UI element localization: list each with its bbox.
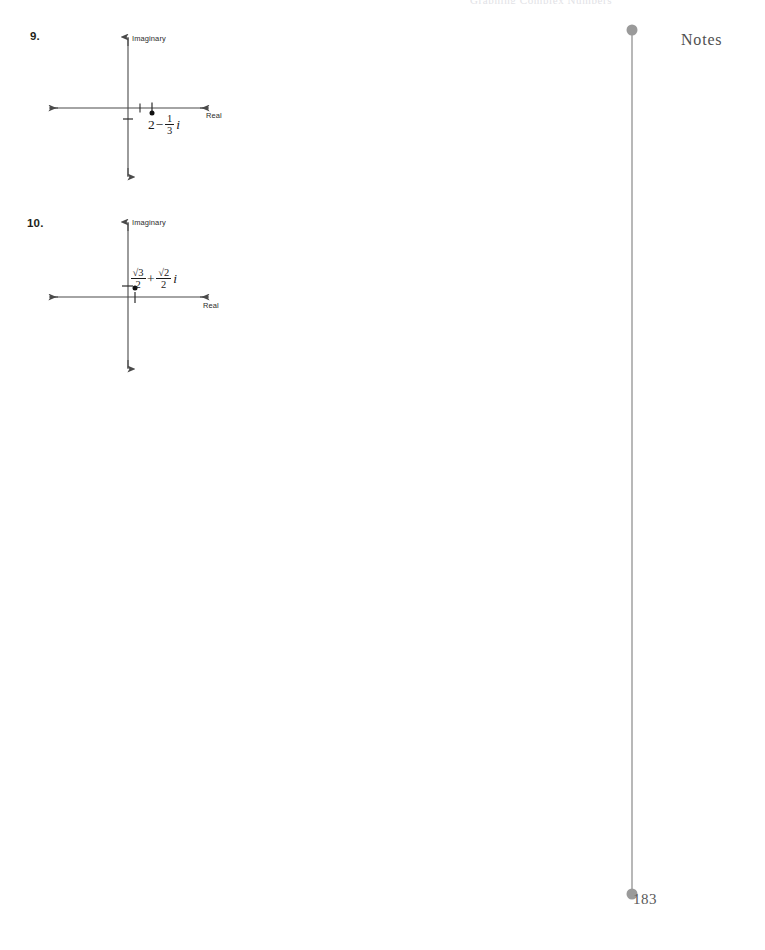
fraction-denominator: 3: [165, 125, 174, 136]
notes-label: Notes: [681, 31, 722, 49]
problem-10-imaginary-axis-label: Imaginary: [132, 218, 166, 227]
fraction-numerator-sqrt3: √3: [131, 267, 146, 279]
fraction-one-third: 1 3: [165, 113, 174, 136]
problem-9-point-label: 2 − 1 3 i: [148, 113, 180, 136]
problem-10-point-label: √3 2 + √2 2 i: [130, 267, 177, 290]
page-number: 183: [633, 891, 657, 908]
problem-9-imaginary-axis-label: Imaginary: [132, 34, 166, 43]
problem-9-real-axis-label: Real: [206, 111, 222, 120]
problem-9: 9.: [0, 0, 300, 200]
problem-9-number: 9.: [30, 30, 40, 42]
problem-10-axes-svg: [40, 213, 260, 383]
real-part-text: 2: [148, 118, 155, 132]
imaginary-unit: i: [175, 118, 180, 132]
running-head: Graphing Complex Numbers: [470, 0, 690, 4]
fraction-denominator-2a: 2: [133, 279, 142, 290]
notes-spine: [624, 22, 640, 906]
problem-10: 10.: [0, 205, 300, 395]
fraction-sqrt2-over-2: √2 2: [156, 267, 171, 290]
notes-spine-top-dot: [627, 25, 638, 36]
imaginary-unit: i: [172, 272, 177, 286]
fraction-numerator-sqrt2: √2: [156, 267, 171, 279]
fraction-sqrt3-over-2: √3 2: [131, 267, 146, 290]
minus-operator: −: [155, 118, 165, 132]
fraction-numerator: 1: [165, 113, 174, 125]
problem-10-complex-plane: [40, 213, 260, 383]
fraction-denominator-2b: 2: [159, 279, 168, 290]
notes-spine-svg: [624, 22, 640, 902]
plus-operator: +: [146, 272, 156, 286]
problem-10-real-axis-label: Real: [203, 301, 219, 310]
